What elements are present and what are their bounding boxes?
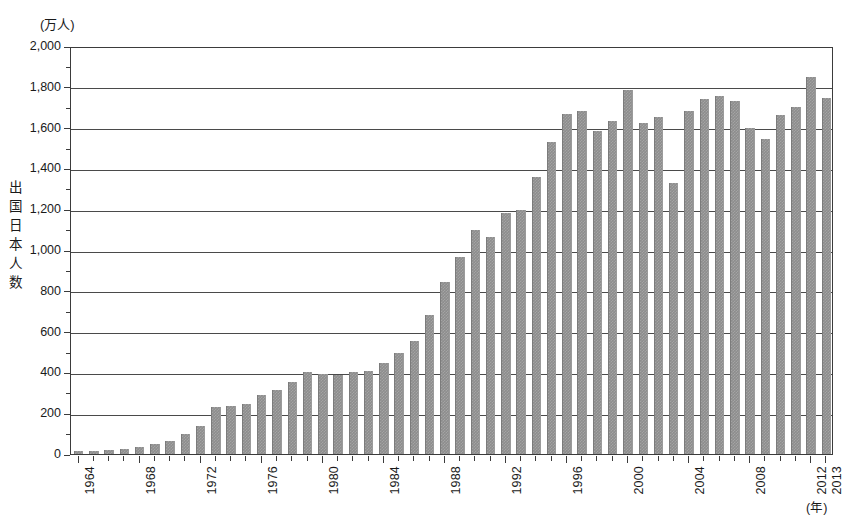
x-tick-mark xyxy=(123,456,124,461)
x-tick-mark xyxy=(261,456,262,463)
x-tick-mark xyxy=(795,456,796,461)
chart-figure: (万人) 出 国 日 本 人 数 02004006008001,0001,200… xyxy=(0,0,858,530)
bar xyxy=(577,111,586,454)
bar xyxy=(349,372,358,454)
bar xyxy=(730,101,739,454)
x-tick-label: 1968 xyxy=(144,466,158,495)
x-tick-mark xyxy=(215,456,216,461)
x-tick-mark xyxy=(658,456,659,461)
bar xyxy=(654,117,663,454)
bar xyxy=(822,98,831,454)
bar xyxy=(89,451,98,454)
x-tick-mark xyxy=(581,456,582,461)
x-tick-mark xyxy=(490,456,491,461)
x-tick-mark xyxy=(474,456,475,461)
x-axis-unit-label: (年) xyxy=(806,497,827,516)
bar xyxy=(455,257,464,454)
bar xyxy=(440,282,449,454)
bar xyxy=(303,372,312,454)
x-tick-mark xyxy=(78,456,79,463)
bar xyxy=(288,382,297,454)
bar xyxy=(150,444,159,454)
x-tick-label: 2004 xyxy=(693,466,707,495)
bar xyxy=(715,96,724,454)
y-tick-label: 800 xyxy=(0,284,61,298)
x-tick-mark xyxy=(429,456,430,461)
x-tick-label: 2012 xyxy=(815,466,829,495)
bar xyxy=(684,111,693,454)
x-tick-mark xyxy=(459,456,460,461)
x-tick-mark xyxy=(169,456,170,461)
x-tick-label: 2013 xyxy=(830,466,844,495)
bar xyxy=(532,177,541,454)
bar xyxy=(74,451,83,454)
y-tick-label: 0 xyxy=(0,447,61,461)
bar xyxy=(745,128,754,454)
bar xyxy=(272,390,281,454)
x-tick-mark xyxy=(642,456,643,461)
bar xyxy=(471,230,480,454)
bar xyxy=(761,139,770,454)
x-tick-label: 1984 xyxy=(388,466,402,495)
x-tick-mark xyxy=(230,456,231,461)
bar xyxy=(333,375,342,454)
x-tick-mark xyxy=(307,456,308,461)
bar xyxy=(364,371,373,454)
x-tick-mark xyxy=(322,456,323,463)
x-tick-mark xyxy=(245,456,246,461)
bar xyxy=(242,404,251,454)
x-tick-label: 1996 xyxy=(571,466,585,495)
x-tick-mark xyxy=(566,456,567,463)
x-tick-mark xyxy=(764,456,765,461)
bar xyxy=(501,213,510,454)
x-tick-label: 2000 xyxy=(632,466,646,495)
x-tick-label: 1972 xyxy=(205,466,219,495)
x-tick-mark xyxy=(444,456,445,463)
y-tick-label: 200 xyxy=(0,406,61,420)
bar xyxy=(669,183,678,454)
bar xyxy=(547,142,556,454)
x-tick-mark xyxy=(673,456,674,461)
bar xyxy=(226,406,235,454)
bar xyxy=(623,90,632,454)
bar xyxy=(196,426,205,454)
bar xyxy=(806,77,815,454)
x-tick-mark xyxy=(535,456,536,461)
x-tick-mark xyxy=(780,456,781,461)
bar xyxy=(776,115,785,454)
bar xyxy=(318,374,327,454)
x-tick-mark xyxy=(291,456,292,461)
x-tick-label: 1980 xyxy=(327,466,341,495)
x-tick-mark xyxy=(749,456,750,463)
x-tick-mark xyxy=(734,456,735,461)
bar xyxy=(211,407,220,454)
y-axis-title: 出 国 日 本 人 数 xyxy=(6,178,24,292)
x-tick-mark xyxy=(703,456,704,461)
y-axis-unit-label: (万人) xyxy=(40,14,75,33)
bar xyxy=(639,123,648,454)
bar xyxy=(425,315,434,454)
bar xyxy=(120,449,129,455)
bar xyxy=(700,99,709,454)
x-tick-mark xyxy=(627,456,628,463)
x-tick-mark xyxy=(505,456,506,463)
x-tick-mark xyxy=(825,456,826,463)
y-tick-label: 1,000 xyxy=(0,243,61,257)
gridline xyxy=(71,88,832,89)
x-tick-mark xyxy=(520,456,521,461)
x-tick-mark xyxy=(154,456,155,461)
y-tick-label: 1,800 xyxy=(0,80,61,94)
bar xyxy=(181,434,190,454)
y-tick-label: 1,600 xyxy=(0,121,61,135)
bar xyxy=(410,341,419,454)
bar xyxy=(486,237,495,454)
x-tick-mark xyxy=(612,456,613,461)
y-tick-label: 400 xyxy=(0,365,61,379)
bar xyxy=(593,131,602,454)
x-tick-mark xyxy=(596,456,597,461)
y-axis-title-char: 日 xyxy=(6,216,24,235)
bar xyxy=(562,114,571,454)
y-tick-label: 600 xyxy=(0,325,61,339)
y-axis-title-char: 出 xyxy=(6,178,24,197)
x-tick-label: 1964 xyxy=(83,466,97,495)
